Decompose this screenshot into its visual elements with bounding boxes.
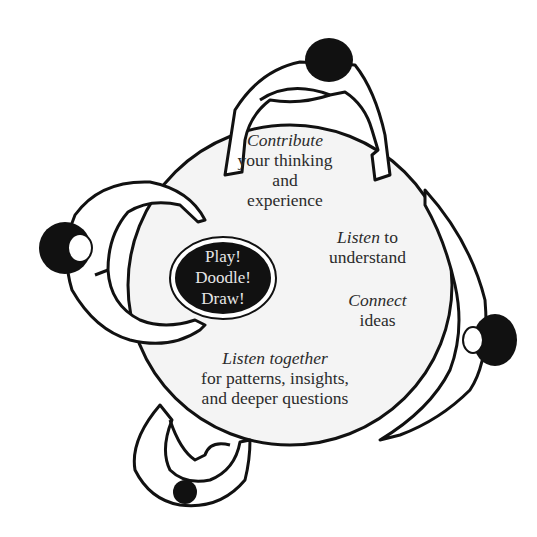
- label-connect: Connect ideas: [335, 290, 420, 330]
- person-bottom-head: [173, 480, 197, 504]
- oval-line-draw: Draw!: [183, 288, 263, 309]
- listen-rest: to: [380, 227, 398, 247]
- oval-line-doodle: Doodle!: [183, 267, 263, 288]
- listen-together-emph: Listen together: [222, 348, 327, 368]
- person-left-face: [68, 234, 92, 262]
- oval-line-play: Play!: [183, 246, 263, 267]
- person-right-face: [463, 327, 483, 353]
- connect-emph: Connect: [348, 290, 406, 310]
- round-table-diagram: Play! Doodle! Draw! Contribute your thin…: [0, 0, 537, 537]
- label-listen-together: Listen together for patterns, insights, …: [170, 348, 380, 408]
- illustration: [0, 0, 537, 537]
- contribute-emph: Contribute: [247, 130, 323, 150]
- contribute-line4: experience: [215, 190, 355, 210]
- listen-together-line3: and deeper questions: [170, 388, 380, 408]
- listen-together-line2: for patterns, insights,: [170, 368, 380, 388]
- label-listen: Listen to understand: [310, 227, 425, 267]
- label-contribute: Contribute your thinking and experience: [215, 130, 355, 210]
- contribute-line3: and: [215, 170, 355, 190]
- listen-emph: Listen: [337, 227, 380, 247]
- connect-line2: ideas: [335, 310, 420, 330]
- center-oval-text: Play! Doodle! Draw!: [183, 246, 263, 309]
- contribute-line2: your thinking: [215, 150, 355, 170]
- person-top-head: [305, 38, 353, 82]
- listen-line2: understand: [310, 247, 425, 267]
